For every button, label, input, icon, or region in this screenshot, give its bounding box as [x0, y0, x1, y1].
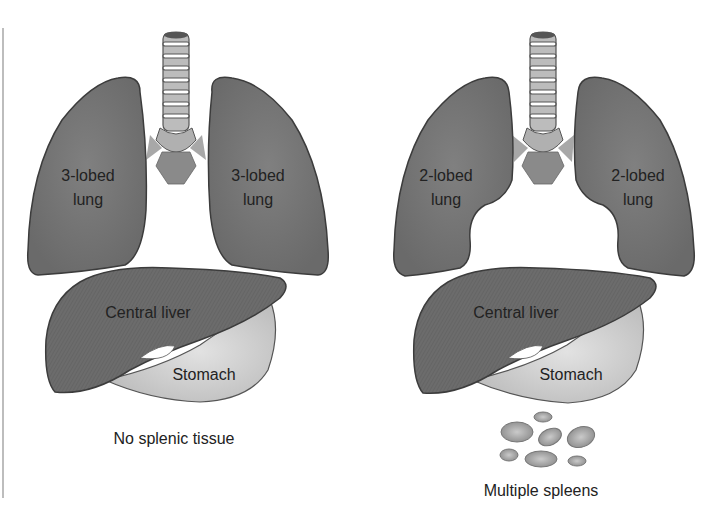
- lung-right-label: 2-lobed: [611, 167, 664, 184]
- lung-left-label: 2-lobed: [419, 167, 472, 184]
- stomach-label: Stomach: [539, 366, 602, 383]
- lung-left-label-2: lung: [431, 191, 461, 208]
- lung-right-label-2: lung: [243, 191, 273, 208]
- liver-label: Central liver: [473, 304, 559, 321]
- spleens-icon: [500, 412, 598, 467]
- lung-right-label-2: lung: [623, 191, 653, 208]
- panel-left: 3-lobed lung 3-lobed lung Central liver …: [28, 32, 329, 448]
- lung-right-label: 3-lobed: [231, 167, 284, 184]
- heterotaxy-diagram: 3-lobed lung 3-lobed lung Central liver …: [0, 0, 717, 511]
- lung-left-label: 3-lobed: [61, 167, 114, 184]
- stomach-label: Stomach: [172, 366, 235, 383]
- trachea-icon: [512, 32, 574, 185]
- trachea-icon: [146, 32, 206, 185]
- panel-right: 2-lobed lung 2-lobed lung Central liver …: [394, 32, 695, 500]
- liver-label: Central liver: [105, 304, 191, 321]
- caption-multiple-spleens: Multiple spleens: [484, 482, 599, 499]
- caption-no-splenic-tissue: No splenic tissue: [114, 430, 235, 447]
- lung-left-label-2: lung: [73, 191, 103, 208]
